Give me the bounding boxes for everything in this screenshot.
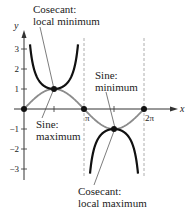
y-axis-arrow-icon	[22, 30, 27, 38]
key-point	[141, 106, 147, 112]
annotation-cosecant-local-minimum: Cosecant: local minimum	[33, 3, 100, 27]
key-point	[81, 106, 87, 112]
annotation-line-1: Cosecant:	[33, 3, 76, 15]
y-tick-label: −1	[9, 124, 19, 134]
sine-cosecant-chart: x y π2π321−1−2−3 Cosecant: local minimum…	[0, 0, 193, 217]
key-point	[51, 86, 57, 92]
leader-line-sin-max	[42, 91, 53, 118]
y-tick-label: −2	[9, 144, 19, 154]
y-tick-label: 3	[15, 44, 20, 54]
y-axis-label: y	[13, 20, 19, 31]
annotation-sine-minimum: Sine: minimum	[95, 69, 138, 93]
annotation-cosecant-local-maximum: Cosecant: local maximum	[78, 185, 147, 209]
y-tick-label: 1	[15, 84, 20, 94]
y-tick-label: −3	[9, 164, 19, 174]
annotation-line-2: minimum	[95, 81, 138, 93]
annotation-line-2: local maximum	[78, 197, 147, 209]
leader-line-csc-local-min	[40, 27, 54, 89]
annotation-line-2: maximum	[36, 130, 81, 142]
y-tick-label: 2	[15, 64, 20, 74]
x-axis-arrow-icon	[170, 107, 178, 112]
annotation-sine-maximum: Sine: maximum	[36, 118, 81, 142]
annotation-line-1: Sine:	[36, 118, 59, 130]
key-point	[21, 106, 27, 112]
annotation-line-1: Cosecant:	[78, 185, 121, 197]
annotation-line-1: Sine:	[95, 69, 118, 81]
key-point	[111, 126, 117, 132]
cosecant-branch-lower	[90, 129, 138, 174]
annotation-line-2: local minimum	[33, 15, 100, 27]
x-axis-label: x	[179, 103, 185, 114]
x-tick-label: 2π	[145, 113, 155, 123]
cosecant-branch-upper	[30, 44, 78, 89]
